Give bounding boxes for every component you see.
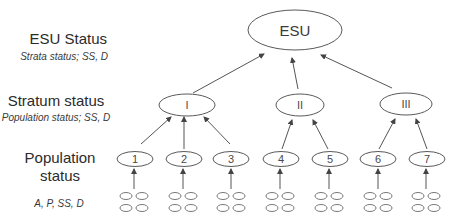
stratum-node-2: II (276, 94, 324, 116)
stratum-node-label: II (297, 99, 303, 111)
population-node-label: 3 (228, 153, 234, 165)
population-status-label-line1: Population (25, 149, 96, 166)
esu-node-label: ESU (280, 22, 311, 39)
population-node-3: 3 (213, 152, 249, 167)
stratum-status-label: Stratum status (8, 92, 105, 109)
subunit-group-7 (412, 193, 440, 212)
arrow-pop5-to-stratum2 (313, 120, 328, 149)
stratum-status-sublabel: Population status; SS, D (2, 112, 110, 123)
population-node-label: 4 (278, 153, 284, 165)
subunit-group-3 (217, 193, 245, 212)
population-node-label: 5 (327, 153, 333, 165)
arrow-pop1-to-stratum1 (141, 117, 171, 144)
stratum-node-1: I (159, 94, 215, 116)
esu-hierarchy-diagram: ESU Status Strata status; SS, D Stratum … (0, 0, 452, 223)
population-status-label-line2: status (40, 167, 80, 184)
arrow-pop6-to-stratum3 (379, 119, 395, 149)
population-status-sublabel: A, P, SS, D (33, 198, 83, 209)
population-node-label: 1 (132, 153, 138, 165)
arrow-stratum3-to-esu (321, 55, 392, 88)
esu-status-sublabel: Strata status; SS, D (20, 51, 108, 62)
population-node-label: 7 (424, 153, 430, 165)
arrow-pop4-to-stratum2 (282, 120, 292, 149)
esu-status-label: ESU Status (29, 30, 107, 47)
arrow-stratum1-to-esu (193, 54, 264, 93)
population-node-4: 4 (263, 152, 299, 167)
population-node-1: 1 (117, 152, 153, 167)
stratum-node-label: I (185, 99, 188, 111)
population-node-5: 5 (312, 152, 348, 167)
population-node-2: 2 (166, 152, 202, 167)
arrow-pop3-to-stratum1 (204, 117, 230, 144)
stratum-node-label: III (401, 98, 410, 110)
subunit-group-5 (315, 193, 343, 212)
subunit-group-6 (364, 193, 392, 212)
subunit-group-2 (169, 193, 197, 212)
subunit-group-4 (266, 193, 294, 212)
population-node-label: 6 (375, 153, 381, 165)
subunit-group-1 (120, 193, 148, 212)
population-node-6: 6 (360, 152, 396, 167)
population-node-7: 7 (409, 152, 445, 167)
population-node-label: 2 (181, 153, 187, 165)
stratum-node-3: III (380, 93, 432, 115)
arrow-pop7-to-stratum3 (416, 119, 427, 149)
esu-node: ESU (248, 10, 342, 50)
arrow-stratum2-to-esu (292, 58, 298, 89)
